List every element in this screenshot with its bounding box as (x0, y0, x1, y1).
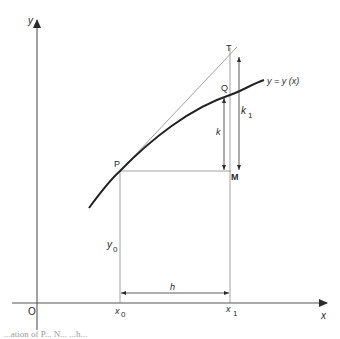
point-t-label: T (226, 43, 232, 53)
y0-subscript: 0 (113, 245, 118, 254)
y0-label: y (106, 239, 113, 250)
point-p-label: P (114, 159, 120, 169)
k1-label: k (241, 105, 247, 116)
y-axis-label: y (27, 15, 34, 26)
point-q-label: Q (221, 83, 228, 93)
x1-label: x (225, 304, 231, 314)
k1-subscript: 1 (248, 111, 253, 120)
origin-label: O (28, 306, 36, 317)
curve-y-of-x (89, 80, 264, 208)
diagram-canvas: y x O P Q T M y = y (x) k k 1 y 0 h x 0 … (0, 0, 340, 339)
tangent-line (120, 47, 237, 171)
k-label: k (216, 127, 221, 137)
x-axis-label: x (320, 310, 327, 321)
x0-subscript: 0 (121, 310, 126, 319)
curve-label: y = y (x) (266, 76, 299, 86)
h-label: h (170, 282, 175, 292)
x1-subscript: 1 (233, 309, 238, 318)
x0-label: x (114, 306, 120, 316)
caption-fragment: ...ation of P... N... ...h... (4, 329, 87, 339)
point-m-label: M (231, 172, 239, 182)
